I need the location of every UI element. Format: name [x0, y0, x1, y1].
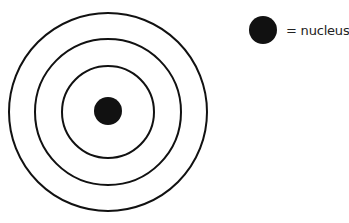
nucleus-legend-symbol [249, 16, 277, 44]
nucleus [94, 97, 122, 125]
legend: = nucleus [249, 15, 349, 45]
legend-label: = nucleus [286, 23, 349, 38]
